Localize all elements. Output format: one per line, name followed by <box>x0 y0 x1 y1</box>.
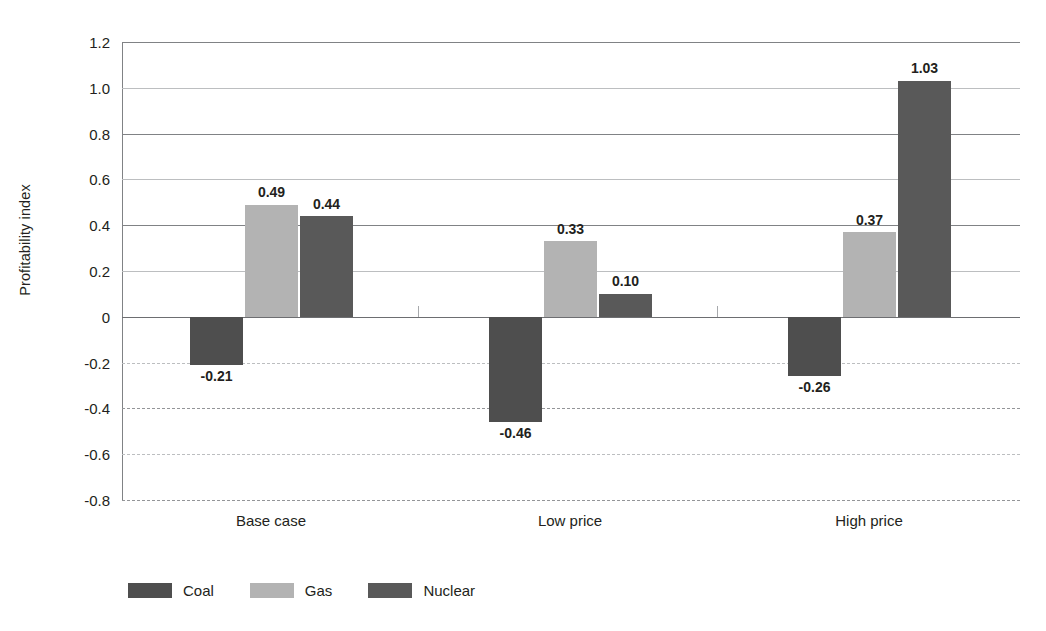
bar-base-case-gas[interactable] <box>245 205 298 317</box>
bar-label-base-case-coal: -0.21 <box>201 368 233 384</box>
y-tick-label-0.2: 0.2 <box>89 263 110 280</box>
legend-item-coal[interactable]: Coal <box>128 582 214 599</box>
bar-chart: Profitability index 1.2 1.0 0.8 0.6 0.4 … <box>0 0 1046 631</box>
legend-item-gas[interactable]: Gas <box>250 582 333 599</box>
y-tick-label--0.2: -0.2 <box>84 354 110 371</box>
bar-high-price-gas[interactable] <box>843 232 896 317</box>
x-category-label-base-case: Base case <box>236 512 306 529</box>
y-tick-label--0.8: -0.8 <box>84 492 110 509</box>
bar-label-high-price-coal: -0.26 <box>799 379 831 395</box>
bar-label-low-price-coal: -0.46 <box>500 425 532 441</box>
y-axis-title: Profitability index <box>17 160 33 320</box>
legend-swatch-coal-icon <box>128 583 172 598</box>
legend-swatch-gas-icon <box>250 583 294 598</box>
legend-label-gas: Gas <box>305 582 333 599</box>
gridline--0.8 <box>122 500 1020 501</box>
bar-base-case-nuclear[interactable] <box>300 216 353 317</box>
gridline--0.4 <box>122 408 1020 409</box>
y-tick-label-1.0: 1.0 <box>89 79 110 96</box>
y-tick-label-1.2: 1.2 <box>89 34 110 51</box>
gridline-0.6 <box>122 179 1020 180</box>
legend-label-coal: Coal <box>183 582 214 599</box>
y-tick-label-0.4: 0.4 <box>89 217 110 234</box>
bar-high-price-nuclear[interactable] <box>898 81 951 317</box>
y-tick-label-0.6: 0.6 <box>89 171 110 188</box>
gridline-zero <box>122 317 1020 318</box>
bar-label-high-price-nuclear: 1.03 <box>911 60 938 76</box>
x-category-label-low-price: Low price <box>538 512 602 529</box>
legend-label-nuclear: Nuclear <box>423 582 475 599</box>
x-category-label-high-price: High price <box>835 512 903 529</box>
plot-area: 1.2 1.0 0.8 0.6 0.4 0.2 0 -0.2 -0.4 -0.6… <box>122 42 1020 500</box>
bar-label-high-price-gas: 0.37 <box>856 212 883 228</box>
legend: Coal Gas Nuclear <box>128 582 511 599</box>
gridline-0.8 <box>122 134 1020 135</box>
bar-low-price-coal[interactable] <box>489 317 542 422</box>
gridline--0.2 <box>122 363 1020 364</box>
bar-low-price-gas[interactable] <box>544 241 597 317</box>
y-tick-label-0.8: 0.8 <box>89 125 110 142</box>
bar-high-price-coal[interactable] <box>788 317 841 377</box>
x-tick-separator-2 <box>717 306 718 317</box>
x-tick-separator-1 <box>418 306 419 317</box>
bar-label-base-case-nuclear: 0.44 <box>313 196 340 212</box>
y-tick-label--0.6: -0.6 <box>84 446 110 463</box>
legend-item-nuclear[interactable]: Nuclear <box>368 582 475 599</box>
y-tick-label-0: 0 <box>102 308 110 325</box>
gridline-1.0 <box>122 88 1020 89</box>
legend-swatch-nuclear-icon <box>368 583 412 598</box>
bar-label-base-case-gas: 0.49 <box>258 184 285 200</box>
bar-low-price-nuclear[interactable] <box>599 294 652 317</box>
bar-base-case-coal[interactable] <box>190 317 243 365</box>
gridline-1.2 <box>122 42 1020 43</box>
y-tick-label--0.4: -0.4 <box>84 400 110 417</box>
bar-label-low-price-nuclear: 0.10 <box>612 273 639 289</box>
bar-label-low-price-gas: 0.33 <box>557 221 584 237</box>
gridline--0.6 <box>122 454 1020 455</box>
